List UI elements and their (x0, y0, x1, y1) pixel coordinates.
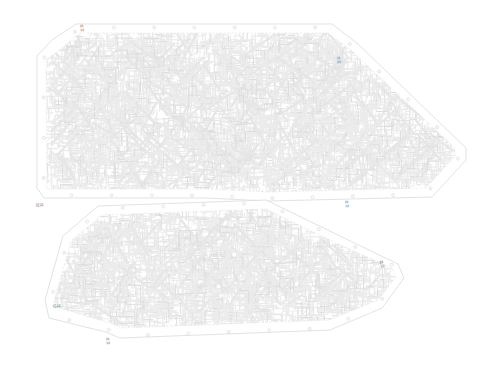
mount-hole-center (64, 252, 65, 253)
mount-hole-center (309, 328, 310, 329)
mount-hole-center (147, 335, 148, 336)
mount-hole-center (228, 331, 229, 332)
mount-hole-center (154, 27, 155, 28)
mount-hole-center (203, 204, 204, 205)
mount-hole-center (272, 198, 273, 199)
mount-hole-center (430, 188, 431, 189)
mount-hole-center (122, 207, 123, 208)
panel-layout-drawing (0, 0, 481, 368)
mount-hole-center (315, 27, 316, 28)
mount-hole-center (355, 247, 356, 248)
mount-hole-center (437, 127, 438, 128)
mount-hole-center (69, 320, 70, 321)
mount-hole-center (379, 71, 380, 72)
mount-hole-center (192, 195, 193, 196)
mount-hole-center (234, 27, 235, 28)
mount-hole-center (382, 298, 383, 299)
mount-hole-center (43, 178, 44, 179)
panel-lower (39, 195, 406, 348)
mount-hole-center (111, 195, 112, 196)
mount-hole-center (43, 97, 44, 98)
mount-hole-center (75, 31, 76, 32)
drawing-canvas: 2112112221112112221121112112 (0, 0, 481, 368)
mount-hole-center (282, 211, 283, 212)
mount-hole-center (352, 196, 353, 197)
panel-upper (33, 9, 469, 211)
